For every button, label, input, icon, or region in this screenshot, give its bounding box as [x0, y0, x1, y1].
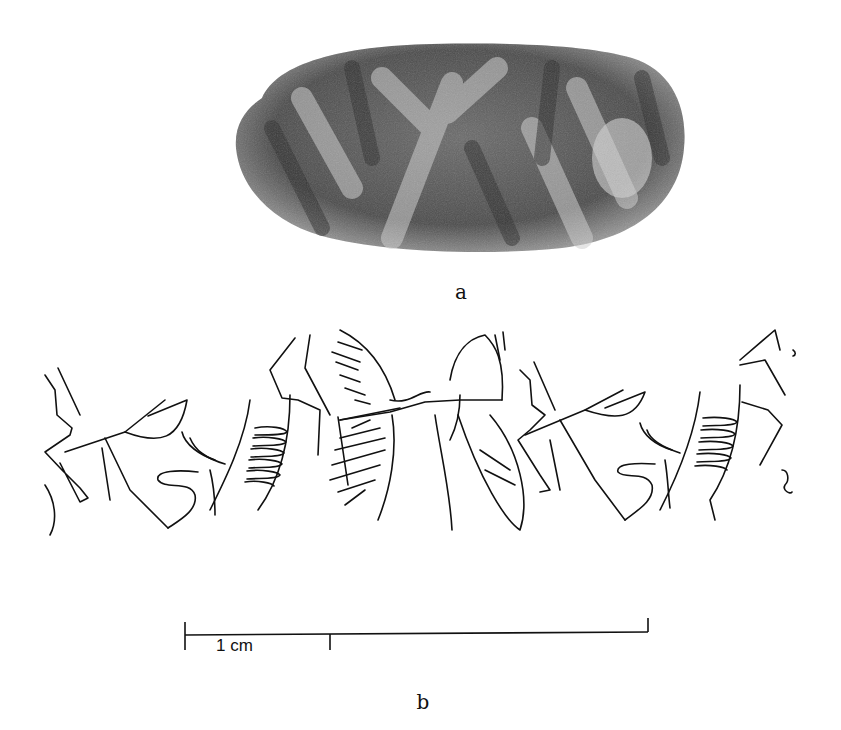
seal-line-drawing [40, 320, 800, 550]
panel-label-a: a [455, 280, 467, 304]
scale-label: 1 cm [216, 636, 253, 656]
panel-label-b: b [417, 690, 430, 714]
scale-bar: 1 cm [180, 600, 660, 660]
impression-photo [232, 38, 688, 254]
figure: a [0, 0, 841, 730]
